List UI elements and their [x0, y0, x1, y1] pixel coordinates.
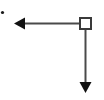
node-square-icon [80, 18, 91, 29]
diagram-svg [0, 0, 104, 100]
diagram-canvas [0, 0, 104, 100]
origin-dot-icon [1, 11, 4, 14]
